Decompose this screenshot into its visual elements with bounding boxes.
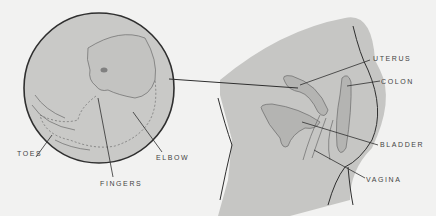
label-colon: COLON [381, 78, 414, 85]
label-elbow: ELBOW [156, 154, 189, 161]
embryo-eye [101, 68, 108, 73]
embryo-anatomy-diagram: TOES FINGERS ELBOW UTERUS COLON BLADDER … [0, 0, 436, 216]
illustration [0, 0, 436, 216]
label-uterus: UTERUS [373, 55, 411, 62]
label-vagina: VAGINA [366, 176, 402, 183]
label-toes: TOES [17, 150, 42, 157]
label-bladder: BLADDER [380, 141, 424, 148]
label-fingers: FINGERS [100, 180, 142, 187]
